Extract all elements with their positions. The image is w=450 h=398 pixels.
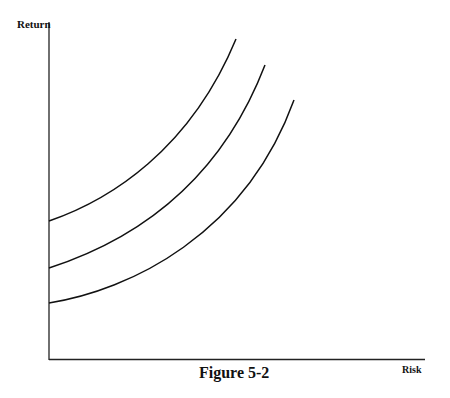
figure-caption: Figure 5-2 xyxy=(199,364,269,382)
x-axis-label: Risk xyxy=(402,364,421,375)
indifference-curve-2 xyxy=(49,65,265,268)
indifference-curve-1 xyxy=(49,39,236,221)
chart-canvas xyxy=(0,0,450,398)
y-axis-label: Return xyxy=(17,18,51,30)
